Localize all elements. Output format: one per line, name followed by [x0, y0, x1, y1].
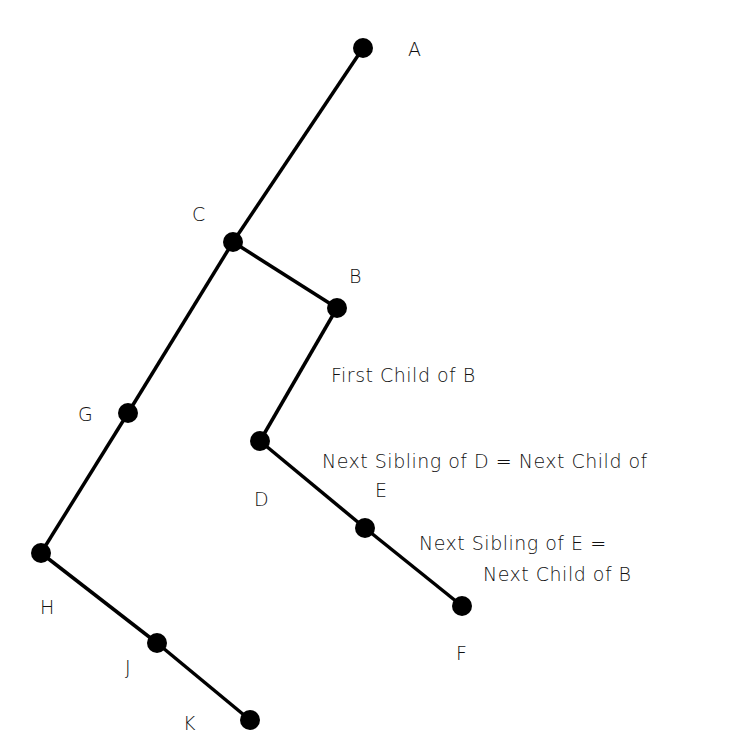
- annotation-next-sibling-e: Next Sibling of E =: [419, 532, 607, 554]
- node-label-b: B: [349, 265, 362, 287]
- node-d: [250, 431, 270, 451]
- tree-diagram: A C B G D E H F J K First Child of B Nex…: [0, 0, 737, 740]
- node-c: [223, 232, 243, 252]
- node-f: [452, 596, 472, 616]
- node-label-f: F: [456, 642, 467, 664]
- node-label-a: A: [408, 38, 422, 60]
- node-k: [240, 710, 260, 730]
- node-e: [355, 518, 375, 538]
- node-a: [353, 38, 373, 58]
- node-label-j: J: [125, 656, 131, 678]
- node-label-d: D: [254, 488, 269, 510]
- node-label-k: K: [183, 712, 196, 734]
- node-h: [31, 543, 51, 563]
- node-label-h: H: [40, 596, 55, 618]
- node-b: [327, 298, 347, 318]
- annotation-next-child-b: Next Child of B: [483, 563, 632, 585]
- annotation-first-child: First Child of B: [331, 364, 476, 386]
- node-label-c: C: [192, 203, 206, 225]
- node-label-g: G: [78, 403, 93, 425]
- node-g: [118, 403, 138, 423]
- node-j: [147, 633, 167, 653]
- annotation-next-sibling-d: Next Sibling of D = Next Child of: [322, 450, 648, 472]
- node-label-e: E: [375, 479, 388, 501]
